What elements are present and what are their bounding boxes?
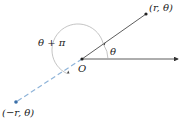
angle-theta-label: θ: [110, 46, 116, 57]
point-neg-r-theta-label: (−r, θ): [2, 107, 34, 118]
point-r-theta: [144, 12, 147, 15]
origin-label: O: [78, 63, 86, 74]
origin-point: [80, 57, 83, 60]
ray-neg-r-theta: [16, 59, 82, 102]
point-r-theta-label: (r, θ): [149, 2, 173, 13]
polar-diagram: O (r, θ) (−r, θ) θ θ + π: [0, 0, 181, 121]
angle-theta-plus-pi-arrow-icon: [67, 71, 70, 74]
point-neg-r-theta: [14, 100, 18, 104]
angle-theta-arc: [103, 44, 108, 59]
angle-theta-plus-pi-label: θ + π: [38, 37, 66, 48]
